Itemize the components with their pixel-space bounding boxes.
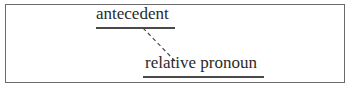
relative-pronoun-underline <box>143 76 264 78</box>
relative-pronoun-label: relative pronoun <box>145 54 257 71</box>
